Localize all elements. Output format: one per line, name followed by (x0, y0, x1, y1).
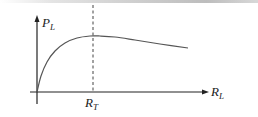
y-axis-arrowhead-icon (35, 15, 40, 22)
power-curve-diagram: PL RL RT (0, 0, 258, 117)
x-axis-label: RL (210, 84, 224, 101)
x-axis-arrowhead-icon (202, 90, 209, 95)
y-axis-label: PL (41, 15, 55, 32)
power-curve (37, 36, 188, 92)
rt-marker-label: RT (84, 95, 99, 112)
